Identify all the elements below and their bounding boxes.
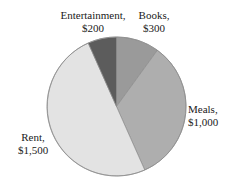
pie-label-meals-value: $1,000 [188, 116, 236, 129]
pie-label-entertainment-value: $200 [52, 22, 134, 35]
pie-chart-figure: Entertainment, $200 Books, $300 Meals, $… [0, 0, 236, 186]
pie-label-meals-name: Meals, [188, 103, 236, 116]
pie-label-entertainment: Entertainment, $200 [52, 9, 134, 34]
pie-slice-group [47, 37, 186, 176]
pie-label-rent: Rent, $1,500 [6, 131, 60, 156]
pie-label-books-name: Books, [130, 9, 178, 22]
pie-label-books-value: $300 [130, 22, 178, 35]
pie-label-rent-value: $1,500 [6, 144, 60, 157]
pie-label-meals: Meals, $1,000 [188, 103, 236, 128]
pie-label-rent-name: Rent, [6, 131, 60, 144]
pie-label-entertainment-name: Entertainment, [52, 9, 134, 22]
pie-label-books: Books, $300 [130, 9, 178, 34]
